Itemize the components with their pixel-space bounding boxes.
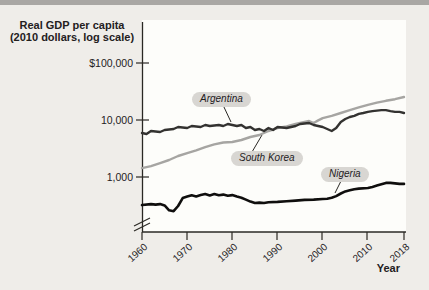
series-label-nigeria: Nigeria [321, 167, 369, 182]
x-axis-title: Year [348, 262, 400, 274]
y-tick-label-10000: 10,000 [43, 114, 133, 126]
series-label-south-korea: South Korea [231, 151, 303, 166]
y-tick-label-100000: $100,000 [43, 57, 133, 69]
x-ticks [142, 232, 404, 240]
y-tick-label-1000: 1,000 [43, 171, 133, 183]
series-label-argentina: Argentina [192, 92, 251, 107]
textbook-figure: Real GDP per capita (2010 dollars, log s… [0, 0, 429, 290]
